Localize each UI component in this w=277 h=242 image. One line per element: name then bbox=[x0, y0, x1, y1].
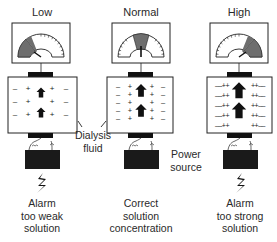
svg-text:+: + bbox=[50, 84, 55, 93]
svg-text:+: + bbox=[50, 97, 55, 106]
caption-normal: Correct solution concentration bbox=[101, 197, 181, 235]
svg-text:++––: ++–– bbox=[251, 122, 266, 129]
svg-text:––++: ––++ bbox=[215, 102, 229, 109]
svg-text:–: – bbox=[13, 84, 18, 93]
panel-high: ––++++–– ––++++–– ––++++–– ––++++–– ––++… bbox=[207, 23, 272, 193]
svg-text:+: + bbox=[150, 114, 155, 123]
battery-high bbox=[223, 150, 258, 169]
battery-low bbox=[25, 150, 60, 169]
alarm-bolt-icon bbox=[37, 173, 46, 193]
svg-text:+: + bbox=[50, 110, 55, 119]
svg-text:–: – bbox=[13, 110, 18, 119]
title-low: Low bbox=[22, 6, 62, 19]
svg-text:–: – bbox=[64, 97, 69, 106]
svg-text:++––: ++–– bbox=[251, 92, 266, 99]
svg-text:–: – bbox=[13, 97, 18, 106]
svg-text:+: + bbox=[128, 114, 133, 123]
caption-low: Alarm too weak solution bbox=[10, 197, 74, 235]
svg-text:++––: ++–– bbox=[251, 112, 266, 119]
svg-text:––++: ––++ bbox=[215, 122, 229, 129]
svg-text:+: + bbox=[26, 110, 31, 119]
dialysis-pointer-right bbox=[101, 121, 106, 127]
title-normal: Normal bbox=[111, 6, 171, 19]
panel-low: –++– –++– –++– bbox=[8, 23, 77, 193]
svg-text:––++: ––++ bbox=[215, 112, 229, 119]
svg-text:––++: ––++ bbox=[215, 92, 229, 99]
dialysis-pointer-left bbox=[78, 121, 82, 127]
svg-text:++––: ++–– bbox=[251, 82, 266, 89]
power-source-label: Power source bbox=[166, 148, 206, 173]
svg-text:+: + bbox=[26, 97, 31, 106]
caption-high: Alarm too strong solution bbox=[202, 197, 277, 235]
alarm-bolt-icon bbox=[236, 173, 245, 193]
svg-text:+: + bbox=[26, 84, 31, 93]
dialysis-fluid-label: Dialysis fluid bbox=[68, 129, 118, 154]
svg-text:––++: ––++ bbox=[215, 82, 229, 89]
svg-text:++––: ++–– bbox=[251, 102, 266, 109]
svg-text:–: – bbox=[64, 110, 69, 119]
title-high: High bbox=[219, 6, 259, 19]
svg-text:–: – bbox=[64, 84, 69, 93]
battery-normal bbox=[124, 150, 159, 169]
